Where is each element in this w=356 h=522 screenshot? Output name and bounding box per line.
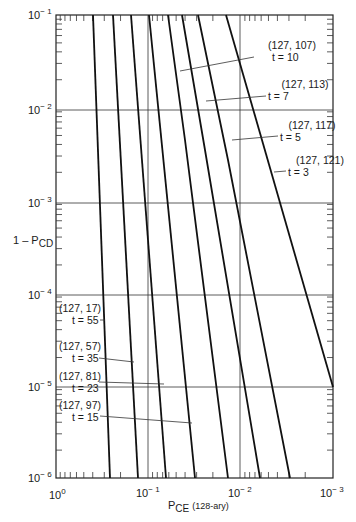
x-tick-0: 100 xyxy=(49,487,66,501)
y-axis-title: 1 – PCD xyxy=(13,234,53,249)
svg-text:(127, 57): (127, 57) xyxy=(59,340,101,352)
svg-text:(127, 113): (127, 113) xyxy=(281,78,328,90)
y-tick-2: 10− 2 xyxy=(28,102,52,116)
curve-t10 xyxy=(168,15,228,478)
curve-t3 xyxy=(226,15,333,387)
svg-text:(127, 17): (127, 17) xyxy=(59,302,101,314)
svg-text:t = 23: t = 23 xyxy=(72,382,99,394)
svg-text:(127, 117): (127, 117) xyxy=(288,119,335,131)
leader-lines xyxy=(99,57,286,423)
x-tick-3: 10− 3 xyxy=(320,485,344,499)
svg-text:t = 10: t = 10 xyxy=(272,51,299,63)
svg-text:t = 7: t = 7 xyxy=(268,90,289,102)
x-tick-2: 10− 2 xyxy=(228,485,252,499)
svg-text:(127, 121): (127, 121) xyxy=(296,154,344,166)
chart: (127, 107) t = 10 (127, 113) t = 7 (127,… xyxy=(0,0,356,522)
svg-text:(127, 107): (127, 107) xyxy=(268,39,316,51)
x-axis-title: PCE(128-ary) xyxy=(168,499,229,514)
y-tick-4: 10− 4 xyxy=(28,287,52,301)
curve-t15 xyxy=(149,15,195,478)
svg-text:t = 15: t = 15 xyxy=(72,411,99,423)
x-tick-1: 10− 1 xyxy=(136,485,160,499)
y-tick-6: 10− 6 xyxy=(28,470,52,484)
y-tick-1: 10− 1 xyxy=(28,7,52,21)
x-tick-labels: 100 10− 1 10− 2 10− 3 xyxy=(49,485,344,501)
svg-text:t = 35: t = 35 xyxy=(72,352,99,364)
curve-t7 xyxy=(182,15,260,478)
curve-t35 xyxy=(113,15,138,478)
svg-text:(127, 81): (127, 81) xyxy=(59,370,101,382)
svg-text:t = 55: t = 55 xyxy=(72,314,99,326)
y-tick-5: 10− 5 xyxy=(28,379,52,393)
svg-text:t = 5: t = 5 xyxy=(280,131,301,143)
svg-text:(127, 97): (127, 97) xyxy=(59,399,101,411)
y-tick-3: 10− 3 xyxy=(28,195,52,209)
curve-t5 xyxy=(198,15,290,478)
svg-text:t = 3: t = 3 xyxy=(288,166,309,178)
curve-t23 xyxy=(131,15,166,478)
